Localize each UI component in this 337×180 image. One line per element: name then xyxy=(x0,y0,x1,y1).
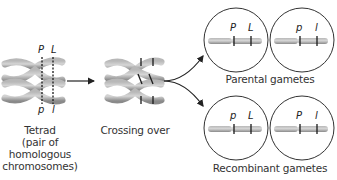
recombinant-gametes-label: Recombinant gametes xyxy=(208,162,332,174)
recombinant-2-allele-l: l xyxy=(315,110,318,121)
recombinant-1-allele-L: L xyxy=(248,110,254,121)
parental-2-allele-p: p xyxy=(296,22,302,33)
allele-p: p xyxy=(38,104,44,115)
tetrad xyxy=(5,57,62,104)
crossing-over-chromosomes xyxy=(108,58,161,104)
arrow-to-recombinant-icon xyxy=(164,81,203,106)
parental-2-allele-l: l xyxy=(315,22,318,33)
recombinant-2-allele-P: P xyxy=(296,110,302,121)
arrow-to-parental-icon xyxy=(164,56,203,81)
allele-P: P xyxy=(38,44,44,55)
parental-gametes-label: Parental gametes xyxy=(218,73,322,85)
meiosis-crossing-over-diagram: P L p l Tetrad (pair of homologous chrom… xyxy=(0,0,337,180)
parental-1-allele-L: L xyxy=(248,22,254,33)
recombinant-1-allele-p: p xyxy=(230,110,236,121)
parental-1-allele-P: P xyxy=(230,22,236,33)
tetrad-label: Tetrad (pair of homologous chromosomes) xyxy=(0,124,80,172)
allele-l: l xyxy=(52,104,55,115)
crossing-over-label: Crossing over xyxy=(98,124,172,136)
allele-L: L xyxy=(51,44,57,55)
